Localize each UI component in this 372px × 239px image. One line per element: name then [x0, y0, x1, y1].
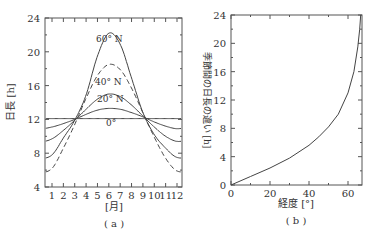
y-tick-label: 16 — [213, 67, 226, 78]
y-tick-label: 20 — [27, 47, 40, 58]
figure: 4812162024 123456789101112 60° N 40° N 2… — [0, 0, 372, 239]
x-tick-label: 8 — [128, 190, 134, 201]
y-tick-label: 0 — [220, 180, 226, 191]
x-axis-label-a: [月] — [105, 201, 123, 212]
y-tick-label: 16 — [27, 81, 40, 92]
y-tick-label: 8 — [34, 148, 40, 159]
y-tick-label: 4 — [34, 182, 40, 193]
y-axis-label-b: 季節間の日長の違い [h] — [202, 52, 213, 149]
chart-a: 4812162024 123456789101112 60° N 40° N 2… — [5, 13, 183, 229]
y-axis-label-a: 日長 [h] — [5, 83, 16, 121]
x-tick-label: 0 — [228, 188, 234, 199]
y-tick-label: 12 — [27, 114, 40, 125]
annotation-40n: 40° N — [95, 77, 122, 87]
y-axis-b: 04812162024 — [213, 10, 362, 191]
x-tick-label: 7 — [117, 190, 123, 201]
chart-b: 04812162024 0204060 季節間の日長の違い [h] 経度 [°]… — [202, 10, 362, 226]
x-tick-label: 2 — [60, 190, 66, 201]
plot-frame-b — [231, 15, 362, 185]
annotation-20n: 20° N — [97, 94, 124, 104]
x-tick-label: 3 — [72, 190, 78, 201]
x-tick-label: 5 — [94, 190, 100, 201]
series-line — [231, 15, 361, 185]
x-tick-label: 1 — [49, 190, 55, 201]
x-tick-label: 9 — [140, 190, 146, 201]
x-tick-label: 12 — [171, 190, 184, 201]
y-tick-label: 20 — [213, 38, 226, 49]
x-tick-label: 4 — [83, 190, 89, 201]
x-tick-label: 60 — [342, 188, 355, 199]
x-axis-label-b: 経度 [°] — [278, 197, 314, 209]
y-tick-label: 12 — [213, 95, 226, 106]
panel-label-a: ( a ) — [104, 218, 124, 229]
x-tick-label: 6 — [106, 190, 112, 201]
y-tick-label: 24 — [213, 10, 226, 21]
y-tick-label: 8 — [220, 123, 226, 134]
annotation-60n: 60° N — [96, 34, 123, 44]
series-b — [231, 15, 361, 185]
y-tick-label: 24 — [27, 13, 40, 24]
x-axis-a: 123456789101112 — [49, 18, 184, 201]
x-axis-b: 0204060 — [228, 15, 355, 199]
y-tick-label: 4 — [220, 152, 226, 163]
x-tick-label: 20 — [264, 188, 277, 199]
panel-label-b: ( b ) — [286, 215, 307, 226]
annotation-0: 0° — [106, 118, 116, 128]
